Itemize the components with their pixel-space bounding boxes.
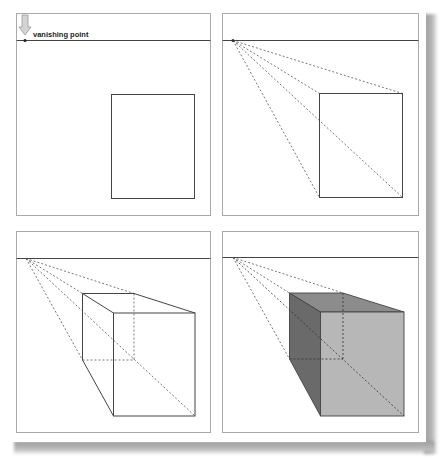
- panel-step-3: [17, 232, 211, 433]
- vanishing-point-marker: [23, 39, 26, 42]
- panel-frame: [17, 14, 211, 216]
- cube-front-face: [321, 312, 405, 416]
- vanishing-point-label: vanishing point: [33, 30, 89, 39]
- vanishing-point-marker: [231, 39, 234, 42]
- panel-step-1: vanishing point: [17, 14, 211, 216]
- panel-step-2: [223, 14, 419, 216]
- perspective-diagram: vanishing point: [0, 0, 442, 467]
- panel-step-4: [223, 232, 419, 433]
